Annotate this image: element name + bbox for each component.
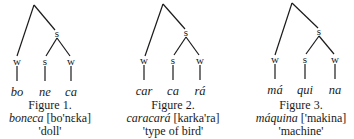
leaf-stress-label: w xyxy=(196,54,204,66)
leaf-stress-label: s xyxy=(171,54,175,66)
ipa-transcription: [bo'nɛka] xyxy=(47,111,92,125)
branch-node-label: s xyxy=(317,25,321,37)
figure-1-caption: Figure 1. boneca [bo'nɛka] 'doll' xyxy=(0,99,100,138)
branch-line xyxy=(319,36,334,54)
syllable: car xyxy=(136,84,153,98)
leaf-stress-label: w xyxy=(271,53,279,65)
branch-line xyxy=(174,37,186,55)
figure-2-caption: Figure 2. caracará [karka'ra] 'type of b… xyxy=(115,99,231,138)
gloss: 'machine' xyxy=(248,125,354,138)
branch-line xyxy=(163,4,185,29)
syllable: ne xyxy=(39,85,51,99)
figure-3-caption: Figure 3. máquina ['makina] 'machine' xyxy=(248,99,354,138)
syllable: má xyxy=(267,83,282,97)
leaf-stress-label: w xyxy=(140,54,148,66)
gloss: 'doll' xyxy=(0,125,100,138)
orthographic-word: caracará xyxy=(126,111,170,125)
branch-line xyxy=(306,36,319,54)
branch-line xyxy=(17,5,34,56)
ipa-transcription: [karka'ra] xyxy=(173,111,219,125)
syllable: ca xyxy=(65,85,77,99)
tree-figure-1: s w s w bo ne ca xyxy=(11,5,77,99)
syllable: ca xyxy=(167,84,179,98)
branch-node-label: s xyxy=(55,27,59,39)
branch-line xyxy=(275,3,292,55)
orthographic-word: máquina xyxy=(256,111,298,125)
syllable: rá xyxy=(194,84,205,98)
branch-line xyxy=(46,38,57,56)
syllable: qui xyxy=(297,83,314,97)
branch-line xyxy=(57,38,70,56)
syllable: na xyxy=(329,83,342,97)
leaf-stress-label: w xyxy=(13,55,21,67)
branch-node-label: s xyxy=(184,26,188,38)
branch-line xyxy=(292,3,318,28)
branch-line xyxy=(34,5,55,30)
gloss: 'type of bird' xyxy=(115,125,231,138)
tree-figure-3: s w s w má qui na xyxy=(267,3,341,97)
tree-figure-2: s w s w car ca rá xyxy=(136,4,206,98)
branch-line xyxy=(145,4,163,56)
orthographic-word: boneca xyxy=(9,111,44,125)
ipa-transcription: ['makina] xyxy=(301,111,346,125)
leaf-stress-label: s xyxy=(303,53,307,65)
leaf-stress-label: w xyxy=(331,53,339,65)
syllable: bo xyxy=(11,85,24,99)
branch-line xyxy=(186,37,199,55)
leaf-stress-label: w xyxy=(67,55,75,67)
leaf-stress-label: s xyxy=(43,55,47,67)
